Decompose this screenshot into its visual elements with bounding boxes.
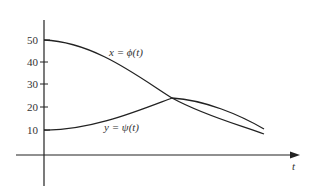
- y-ticks: 50 40 30 20 10: [27, 34, 50, 136]
- tick-40: 40: [27, 56, 39, 68]
- tick-30: 30: [27, 78, 39, 90]
- x-axis-arrow-icon: [290, 152, 300, 159]
- tick-50: 50: [27, 34, 39, 46]
- curve-x-label: x = ϕ(t): [108, 46, 143, 59]
- x-axis-label: t: [292, 160, 296, 172]
- tick-20: 20: [27, 101, 39, 113]
- phase-diagram: 50 40 30 20 10 x = ϕ(t) y = ψ(t) t: [0, 0, 315, 189]
- tick-10: 10: [27, 124, 39, 136]
- curve-y-psi: [44, 98, 264, 130]
- curve-x-phi: [44, 40, 264, 134]
- curve-y-label: y = ψ(t): [103, 121, 139, 134]
